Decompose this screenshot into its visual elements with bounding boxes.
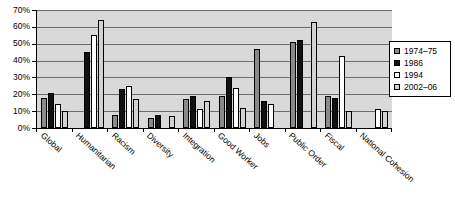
legend-item[interactable]: 1986 [394,57,447,69]
x-tick-label: Racism [110,131,137,157]
y-tick-label: 50% [13,39,30,47]
bar [155,115,161,128]
bar [254,49,260,128]
y-tick-label: 60% [13,22,30,30]
y-tick-label: 40% [13,56,30,64]
bar [219,96,225,128]
bar [41,98,47,128]
x-tick-label: Fiscal [323,131,346,153]
bar [133,99,139,128]
legend-item[interactable]: 1994 [394,69,447,81]
x-tick-label: Diversity [145,131,175,159]
bar [268,104,274,128]
y-tick-label: 0% [18,124,30,132]
bar-group [250,10,286,128]
bar [346,111,352,128]
bar [197,109,203,128]
bar-group [144,10,180,128]
x-tick-label: National Cohesion [358,131,416,184]
bar-groups [37,10,392,128]
bar [84,52,90,128]
bar-group [215,10,251,128]
bar [126,86,132,128]
bar-group [357,10,393,128]
bar [297,40,303,128]
bar [55,104,61,128]
bar-group [286,10,322,128]
y-tick-label: 70% [13,6,30,14]
x-tick-label: Jobs [252,131,271,150]
bar [226,77,232,128]
bar-group [73,10,109,128]
legend-swatch [394,48,400,54]
bar [311,22,317,128]
x-tick-label: Global [39,131,63,154]
legend-label: 1986 [404,59,423,68]
y-tick-label: 30% [13,73,30,81]
bar [375,109,381,128]
bar [48,93,54,128]
bar [148,118,154,128]
bar-group [179,10,215,128]
plot-area [36,10,392,129]
bar [339,56,345,128]
bar [169,116,175,128]
legend-swatch [394,60,400,66]
legend-label: 2002–06 [404,83,437,92]
x-tick-label: Integration [181,131,217,165]
legend-label: 1974–75 [404,47,437,56]
x-axis-labels: GlobalHumanitarianRacismDiversityIntegra… [36,131,392,211]
bar [233,88,239,128]
bar [62,111,68,128]
bar-group [321,10,357,128]
legend-swatch [394,84,400,90]
bar [332,98,338,128]
bar [91,35,97,128]
bar [112,115,118,128]
bar-group [37,10,73,128]
bar [382,111,388,128]
y-tick-label: 20% [13,90,30,98]
y-tick-label: 10% [13,107,30,115]
legend-item[interactable]: 1974–75 [394,45,447,57]
bar [204,101,210,128]
bar-chart: 70%60%50%40%30%20%10%0% GlobalHumanitari… [0,0,455,214]
bar [290,42,296,128]
bar [240,108,246,128]
legend-swatch [394,72,400,78]
bar [190,96,196,128]
y-axis: 70%60%50%40%30%20%10%0% [0,0,36,129]
bar-group [108,10,144,128]
bar [119,89,125,128]
legend: 1974–75198619942002–06 [389,41,451,97]
legend-item[interactable]: 2002–06 [394,81,447,93]
bar [261,101,267,128]
bar [183,99,189,128]
bar [98,20,104,128]
legend-label: 1994 [404,71,423,80]
bar [325,96,331,128]
